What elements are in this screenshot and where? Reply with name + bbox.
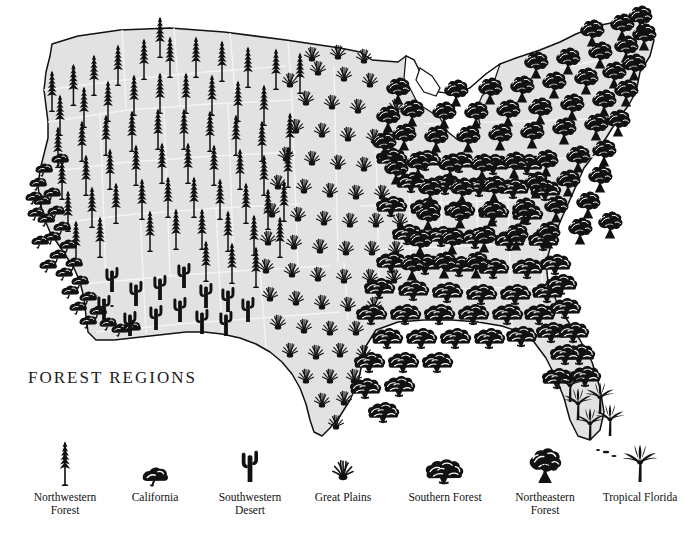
palm-tree-icon	[580, 440, 684, 488]
legend-item-tropical-florida[interactable]: Tropical Florida	[580, 440, 684, 504]
legend-label: Tropical Florida	[580, 491, 684, 504]
legend-title: FOREST REGIONS	[28, 368, 197, 388]
map-figure: FOREST REGIONS Northwestern Forest Calif…	[0, 0, 684, 544]
